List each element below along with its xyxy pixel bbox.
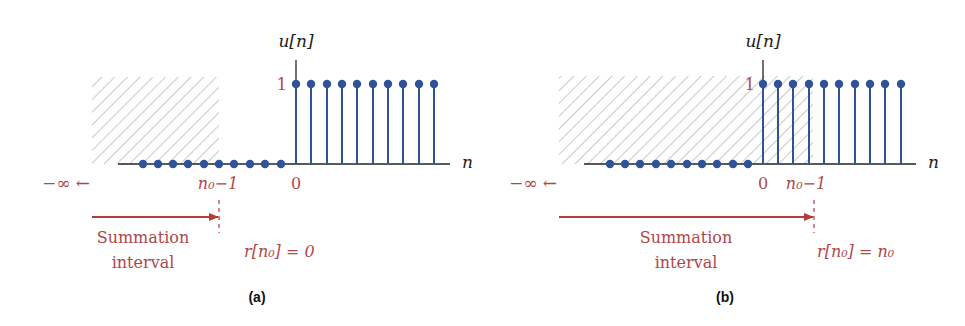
hatched-region: [559, 76, 813, 164]
one-tick-label: 1: [277, 75, 287, 94]
summation-label-line1: Summation: [640, 228, 733, 247]
zero-tick-label: 0: [291, 174, 301, 193]
summation-label-line2: interval: [655, 253, 718, 272]
summation-label-line2: interval: [112, 253, 175, 272]
caption-a: (a): [248, 289, 265, 305]
summation-label-line1: Summation: [97, 228, 190, 247]
y-axis-label: u[n]: [745, 31, 781, 51]
neg-infinity-label: −∞ ←: [42, 173, 90, 193]
n0-minus-1-label: n₀−1: [198, 174, 238, 193]
hatched-region: [92, 77, 219, 164]
caption-b: (b): [716, 289, 734, 305]
unit-stems: [292, 80, 438, 164]
x-axis-label: n: [462, 152, 473, 172]
result-label: r[n₀] = n₀: [817, 242, 895, 261]
n0-minus-1-label: n₀−1: [786, 174, 826, 193]
one-tick-label: 1: [745, 75, 755, 94]
y-axis-label: u[n]: [278, 31, 314, 51]
ramp-summation-diagram: u[n] 1 n 0 n₀−1 −∞ ← Summation interval …: [0, 0, 965, 326]
x-axis-label: n: [928, 152, 939, 172]
neg-infinity-label: −∞ ←: [509, 173, 557, 193]
panel-b: u[n] 1 n 0 n₀−1 −∞ ← Summation interval …: [509, 31, 939, 305]
zero-tick-label: 0: [758, 174, 768, 193]
result-label: r[n₀] = 0: [244, 242, 315, 261]
panel-a: u[n] 1 n 0 n₀−1 −∞ ← Summation interval …: [42, 31, 473, 305]
